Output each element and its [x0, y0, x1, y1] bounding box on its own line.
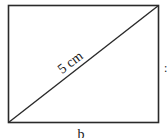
bottom-side-label: b [78, 127, 85, 138]
diagonal-label: 5 cm [55, 48, 86, 77]
rectangle-diagram: 5 cm b : [0, 0, 168, 138]
diagonal-line [9, 6, 159, 123]
right-side-label: : [164, 61, 167, 75]
